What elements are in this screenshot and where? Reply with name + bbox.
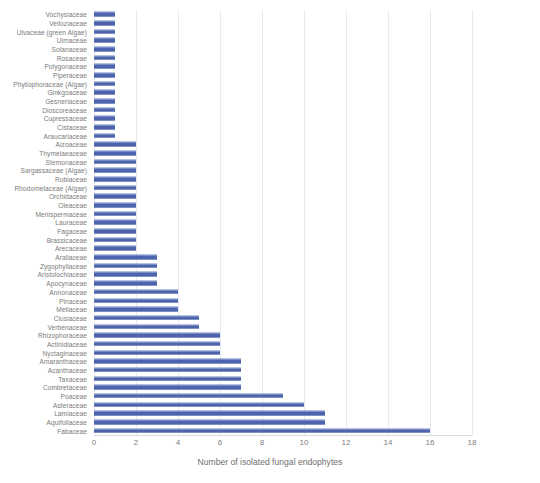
bar-track [94,71,540,80]
bar [94,298,178,303]
x-tick-label: 10 [300,438,309,447]
bar [94,428,430,433]
category-label: Nyctaginaceae [43,349,87,356]
bar-row: Araliaceae [0,253,540,262]
bar [94,12,115,17]
x-axis-line [94,435,472,436]
bar-row: Acanthaceae [0,366,540,375]
category-label: Stemonaceae [46,158,87,165]
category-label: Ulmaceae [57,37,87,44]
bar-track [94,279,540,288]
bar [94,203,136,208]
category-label: Ulvaceae (green Algae) [17,28,87,35]
bar-row: Arecaceae [0,244,540,253]
bar [94,368,241,373]
bar-track [94,149,540,158]
bar-row: Nyctaginaceae [0,348,540,357]
plot-area: VochysiaceaeVelloziaceaeUlvaceae (green … [0,10,540,435]
bar-row: Taxaceae [0,374,540,383]
category-label: Thymelaeaceae [39,150,87,157]
bar [94,255,157,260]
x-tick-label: 6 [218,438,222,447]
bar-row: Lamiaceae [0,409,540,418]
category-label: Piperaceae [53,72,87,79]
category-label: Arecaceae [55,245,87,252]
bar-track [94,209,540,218]
bar-row: Ulvaceae (green Algae) [0,27,540,36]
bar-track [94,105,540,114]
bar [94,350,220,355]
bar-track [94,227,540,236]
x-tick-label: 16 [426,438,435,447]
x-tick-label: 2 [134,438,138,447]
bar [94,394,283,399]
bar-track [94,374,540,383]
category-label: Oleaceae [58,202,87,209]
bar [94,290,178,295]
bar [94,246,136,251]
category-label: Taxaceae [58,375,87,382]
bar-row: Meliaceae [0,305,540,314]
bar-row: Rosaceae [0,53,540,62]
category-label: Rhizophoraceae [38,332,87,339]
bar-track [94,201,540,210]
bar [94,272,157,277]
category-label: Phyllophoraceae (Algae) [13,80,87,87]
bar-track [94,261,540,270]
category-label: Aristolochiaceae [38,271,87,278]
bar [94,116,115,121]
bar [94,47,115,52]
bar [94,107,115,112]
bar-track [94,62,540,71]
bar [94,142,136,147]
bar-row: Solanaceae [0,45,540,54]
category-label: Verbenaceae [47,323,87,330]
category-label: Lamiaceae [54,410,87,417]
bar-row: Polygonaceae [0,62,540,71]
category-label: Meliaceae [56,306,87,313]
bar-row: Apocynaceae [0,279,540,288]
bar-track [94,97,540,106]
bar-track [94,331,540,340]
category-label: Poaceae [61,392,88,399]
bar [94,21,115,26]
x-tick-label: 0 [92,438,96,447]
bar [94,324,199,329]
bar [94,333,220,338]
bar-row: Aizoaceae [0,140,540,149]
bar [94,220,136,225]
bar-track [94,192,540,201]
category-label: Pinaceae [59,297,87,304]
bar-row: Araucariaceae [0,131,540,140]
bar-track [94,253,540,262]
bar-track [94,183,540,192]
bar-track [94,53,540,62]
bar-row: Sargassaceae (Algae) [0,166,540,175]
bar-row: Verbenaceae [0,322,540,331]
bar-row: Dioscoreaceae [0,105,540,114]
bar-track [94,357,540,366]
horizontal-bar-chart: VochysiaceaeVelloziaceaeUlvaceae (green … [0,0,540,483]
bar-row: Fabaceae [0,426,540,435]
category-label: Combretaceae [43,384,87,391]
bar-row: Combretaceae [0,383,540,392]
x-tick-label: 12 [342,438,351,447]
bar [94,73,115,78]
bar-row: Asteraceae [0,400,540,409]
bar [94,81,115,86]
bar-row: Brassicaceae [0,235,540,244]
bar-row: Ginkgoaceae [0,88,540,97]
bar-track [94,305,540,314]
category-label: Cupressaceae [44,115,87,122]
x-tick-label: 18 [468,438,477,447]
category-label: Araliaceae [55,254,87,261]
bar-row: Poaceae [0,392,540,401]
category-label: Apocynaceae [46,280,87,287]
bar-row: Rubiaceae [0,175,540,184]
category-label: Ginkgoaceae [47,89,87,96]
category-label: Solanaceae [52,46,88,53]
bar [94,411,325,416]
bar-row: Zygophyllaceae [0,261,540,270]
bar-row: Rhodomelaceae (Algae) [0,183,540,192]
bar [94,99,115,104]
